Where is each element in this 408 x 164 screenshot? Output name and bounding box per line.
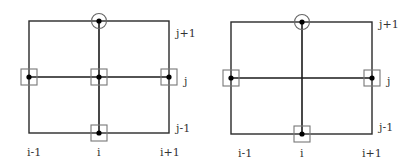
- row-label-j: j: [182, 75, 187, 88]
- col-label-i-minus-1: i-1: [238, 147, 252, 160]
- row-label-j: j: [385, 75, 390, 88]
- node-mid-center: [96, 74, 101, 79]
- col-label-i-plus-1: i+1: [160, 146, 180, 159]
- node-mid-right: [166, 74, 171, 79]
- stencil-right: j+1 j j-1 i-1 i i+1: [223, 15, 399, 161]
- node-bottom-center: [96, 130, 101, 135]
- row-label-j-plus-1: j+1: [377, 18, 399, 31]
- col-label-i-plus-1: i+1: [362, 147, 382, 160]
- col-label-i: i: [300, 147, 304, 160]
- stencil-left: j+1 j j-1 i-1 i i+1: [21, 14, 196, 160]
- stencil-diagrams: j+1 j j-1 i-1 i i+1 j+1 j j-1 i-1 i i+1: [0, 0, 408, 164]
- node-mid-right: [369, 75, 374, 80]
- row-label-j-plus-1: j+1: [174, 27, 196, 40]
- row-label-j-minus-1: j-1: [377, 121, 393, 134]
- node-top-center: [299, 19, 304, 24]
- node-top-center: [96, 18, 101, 23]
- col-label-i-minus-1: i-1: [27, 146, 41, 159]
- row-label-j-minus-1: j-1: [174, 122, 190, 135]
- node-mid-left: [228, 75, 233, 80]
- node-bottom-center: [299, 131, 304, 136]
- node-mid-left: [26, 74, 31, 79]
- col-label-i: i: [97, 146, 101, 159]
